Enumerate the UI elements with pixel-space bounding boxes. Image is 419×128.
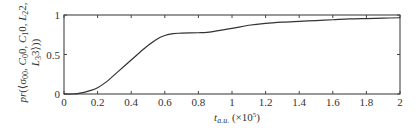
plot-border — [64, 15, 400, 94]
x-tick-label: 1.4 — [292, 96, 306, 108]
x-tick-label: 1.2 — [259, 96, 273, 108]
chart: 00.20.40.60.811.21.41.61.82 00.51 ta.u. … — [0, 0, 419, 128]
x-tick-label: 1.6 — [326, 96, 340, 108]
y-axis-label-line: pr(⟨σ00, C00, C10, L22, — [16, 2, 30, 103]
plot-frame — [64, 15, 400, 94]
x-tick-label: 1.8 — [360, 96, 374, 108]
x-axis-label: ta.u. (×105) — [214, 111, 260, 125]
y-tick-label: 0.5 — [46, 49, 60, 61]
x-tick-label: 0.4 — [124, 96, 138, 108]
y-tick-label: 1 — [55, 9, 61, 21]
x-tick-label: 2 — [397, 96, 403, 108]
x-tick-label: 0.2 — [91, 96, 105, 108]
y-tick-label: 0 — [55, 88, 61, 100]
y-axis-label-line: L33⟩)) — [29, 39, 43, 68]
x-tick-label: 0.6 — [158, 96, 172, 108]
y-axis-label: pr(⟨σ00, C00, C10, L22,L33⟩)) — [16, 2, 43, 103]
x-tick-label: 1 — [229, 96, 235, 108]
x-tick-label: 0 — [61, 96, 67, 108]
series-layer — [64, 18, 400, 94]
x-tick-label: 0.8 — [192, 96, 206, 108]
series-line-probability — [64, 18, 400, 94]
